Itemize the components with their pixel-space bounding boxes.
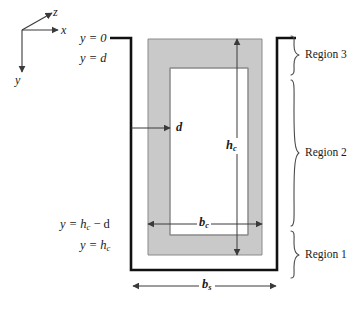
position-label-y0: y = 0 [80,32,106,45]
position-label-yhcd-prefix: y = h [60,217,86,231]
axis-label-x: x [61,24,66,36]
brace-region-3 [291,36,299,75]
region-braces [291,36,299,278]
axis-label-y: y [15,74,20,86]
position-label-yhc-prefix: y = h [80,238,106,252]
position-label-yhcd-suffix: − d [90,217,110,231]
region-label-2: Region 2 [305,147,347,159]
dimension-label-bs-sub: s [208,282,211,292]
region-label-3: Region 3 [305,49,347,61]
dimension-label-hc: hc [224,138,239,154]
dimension-label-hc-sub: c [233,143,237,153]
cross-section-figure: z x y y = 0 y = d y = hc − d y = hc d hc… [0,0,356,309]
dimension-label-bc: bc [197,216,211,230]
region-label-1: Region 1 [305,249,347,261]
position-label-yd: y = d [80,52,106,65]
figure-canvas [0,0,356,309]
position-label-yhc: y = hc [80,239,110,253]
dimension-label-d: d [176,121,182,134]
dimension-label-hc-symbol: h [226,138,233,152]
axis-label-z: z [53,6,58,18]
position-label-yhc-sub: c [106,243,110,253]
brace-region-1 [291,231,299,278]
coordinate-axes [22,13,58,72]
dimension-label-bs: bs [199,278,215,292]
z-axis-line [22,13,52,30]
position-label-yhcd: y = hc − d [60,218,110,232]
brace-region-2 [291,80,299,226]
dimension-label-bc-sub: c [205,220,209,230]
